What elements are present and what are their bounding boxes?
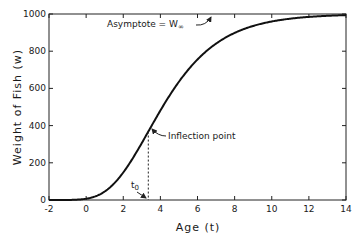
x-tick-label: 14 [340, 204, 352, 214]
x-axis-title: Age (t) [176, 221, 221, 234]
plot-border [49, 14, 346, 200]
y-tick-label: 800 [29, 46, 46, 56]
t0-subscript: 0 [135, 184, 139, 192]
x-tick-label: 10 [266, 204, 278, 214]
inflection-arrow [152, 129, 166, 136]
asymptote-label: Asymptote = W∞ [107, 19, 184, 31]
y-tick-label: 0 [40, 195, 46, 205]
x-tick-label: 6 [195, 204, 201, 214]
series-layer [49, 15, 346, 200]
y-axis-ticks: 02004006008001000 [23, 9, 346, 205]
y-tick-label: 200 [29, 158, 46, 168]
gompertz-growth-chart: -202468101214 02004006008001000 Asymptot… [0, 0, 358, 241]
plot-frame [49, 14, 346, 200]
asymptote-subscript: ∞ [178, 23, 184, 31]
t0-label: t0 [131, 180, 139, 192]
y-tick-label: 600 [29, 83, 46, 93]
x-tick-label: -2 [45, 204, 54, 214]
y-tick-label: 1000 [23, 9, 46, 19]
y-axis-title: Weight of Fish (w) [11, 49, 24, 165]
annotations-layer: Asymptote = W∞Inflection pointt0 [107, 17, 236, 200]
x-axis-ticks: -202468101214 [45, 14, 352, 214]
y-tick-label: 400 [29, 121, 46, 131]
x-tick-label: 0 [83, 204, 89, 214]
inflection-label: Inflection point [168, 131, 236, 141]
asymptote-arrow [196, 17, 211, 25]
growth-curve-line [49, 15, 346, 200]
x-tick-label: 4 [158, 204, 164, 214]
t0-arrow [137, 192, 146, 198]
x-tick-label: 2 [120, 204, 126, 214]
x-tick-label: 8 [232, 204, 238, 214]
x-tick-label: 12 [303, 204, 314, 214]
